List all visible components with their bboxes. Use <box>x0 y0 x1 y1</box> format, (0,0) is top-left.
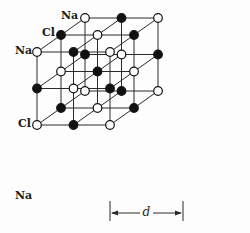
na-ion-icon <box>154 87 163 96</box>
cl-ion-icon <box>117 14 126 23</box>
cl-ion-icon <box>93 67 102 76</box>
spacing-d-label: d <box>143 206 151 218</box>
nacl-lattice-diagram: Na Cl Na Cl Na d <box>0 0 250 233</box>
na-ion-icon <box>93 31 102 40</box>
cl-ion-icon <box>57 104 66 113</box>
cl-ion-icon <box>57 31 66 40</box>
arrow-left-icon <box>111 211 118 216</box>
na-ion-icon <box>106 48 115 57</box>
cl-ion-icon <box>81 50 90 59</box>
na-ion-icon <box>106 121 115 130</box>
na-ion-icon <box>81 14 90 23</box>
cl-ion-icon <box>130 104 139 113</box>
na-ion-icon <box>93 104 102 113</box>
na-ion-icon <box>117 50 126 59</box>
label-cl-front-middle: Cl <box>18 118 31 129</box>
na-ion-icon <box>130 67 139 76</box>
na-ion-icon <box>33 121 42 130</box>
label-na-front-top: Na <box>15 45 32 56</box>
cl-ion-icon <box>117 87 126 96</box>
cl-ion-icon <box>106 84 115 93</box>
label-cl-middle-top: Cl <box>42 27 55 38</box>
cl-ion-icon <box>69 121 78 130</box>
arrow-right-icon <box>175 211 182 216</box>
lattice-drawing <box>0 0 250 233</box>
na-ion-icon <box>57 67 66 76</box>
na-ion-icon <box>81 87 90 96</box>
label-na-front-bottom: Na <box>15 190 32 201</box>
label-na-back-top: Na <box>61 10 78 21</box>
cl-ion-icon <box>154 50 163 59</box>
cl-ion-icon <box>69 48 78 57</box>
na-ion-icon <box>154 14 163 23</box>
na-ion-icon <box>69 84 78 93</box>
na-ion-icon <box>33 48 42 57</box>
cl-ion-icon <box>33 84 42 93</box>
cl-ion-icon <box>130 31 139 40</box>
